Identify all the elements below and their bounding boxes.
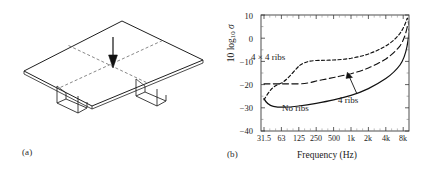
series-label-4x4-ribs: 4 × 4 ribs: [251, 52, 285, 62]
series-label-no-ribs: No ribs: [282, 103, 309, 113]
panel-b-caption: (b): [227, 149, 238, 159]
figure-container: (a) 10 log10 σ 10 0 −10 −20 −30 −40: [0, 0, 422, 174]
plate-diagram-svg: [0, 0, 211, 140]
plot-frame: [261, 15, 409, 131]
series-label-4-ribs: 4 ribs: [338, 95, 358, 105]
panel-a-diagram: (a): [0, 0, 211, 174]
x-tick-label-8k: 8k: [393, 134, 413, 143]
x-axis-title: Frequency (Hz): [237, 150, 417, 160]
x-tick-label-2k: 2k: [358, 134, 378, 143]
panel-a-caption: (a): [22, 147, 32, 157]
chart-plot-svg: [211, 0, 422, 174]
panel-b-chart: 10 log10 σ 10 0 −10 −20 −30 −40: [211, 0, 422, 174]
